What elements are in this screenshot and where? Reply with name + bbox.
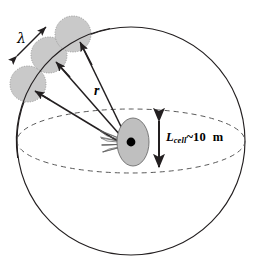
cell-size-label: Lcell~10m <box>166 131 223 144</box>
cell-size-unit: m <box>213 130 224 144</box>
cell-center-dot <box>127 138 136 147</box>
cell-size-subscript: cell <box>174 135 187 145</box>
central-cell <box>117 118 149 166</box>
cell-size-symbol: L <box>166 130 174 144</box>
patch-upper <box>55 16 91 52</box>
figure-container: λ r Lcell~10m <box>0 0 261 274</box>
cell-size-value: 10 <box>193 130 206 144</box>
wavelength-label: λ <box>17 31 26 45</box>
patch-lower <box>10 66 46 102</box>
radius-label: r <box>94 84 99 98</box>
